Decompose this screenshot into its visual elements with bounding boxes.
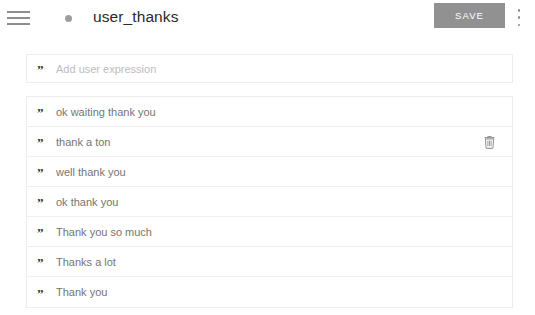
trash-icon[interactable] xyxy=(478,131,500,153)
quote-icon: ” xyxy=(37,256,50,269)
quote-icon: ” xyxy=(37,287,50,300)
expression-row[interactable]: ”Thank you xyxy=(27,277,512,307)
add-expression-input[interactable] xyxy=(56,63,512,75)
add-expression-card[interactable]: ” xyxy=(26,54,513,83)
expression-text: ok thank you xyxy=(56,196,512,208)
quote-icon: ” xyxy=(37,226,50,239)
page-title: user_thanks xyxy=(93,8,179,26)
quote-icon: ” xyxy=(37,136,50,149)
expression-text: thank a ton xyxy=(56,136,478,148)
quote-icon: ” xyxy=(37,106,50,119)
hamburger-bar xyxy=(7,23,30,25)
quote-icon: ” xyxy=(37,63,50,76)
expression-text: Thank you so much xyxy=(56,226,512,238)
quote-icon: ” xyxy=(37,166,50,179)
expression-row[interactable]: ”thank a ton xyxy=(27,127,512,157)
expression-row[interactable]: ”Thank you so much xyxy=(27,217,512,247)
hamburger-menu-icon[interactable] xyxy=(7,11,30,25)
expression-text: ok waiting thank you xyxy=(56,106,512,118)
status-dot-indicator xyxy=(65,15,72,22)
expression-text: well thank you xyxy=(56,166,512,178)
save-button[interactable]: SAVE xyxy=(434,3,505,28)
expression-row[interactable]: ”ok thank you xyxy=(27,187,512,217)
more-vertical-icon[interactable] xyxy=(515,9,523,26)
hamburger-bar xyxy=(7,17,30,19)
overflow-dot xyxy=(518,9,521,12)
expression-row[interactable]: ”Thanks a lot xyxy=(27,247,512,277)
hamburger-bar xyxy=(7,11,30,13)
overflow-dot xyxy=(518,24,521,27)
overflow-dot xyxy=(518,16,521,19)
expression-text: Thank you xyxy=(56,286,512,298)
expression-text: Thanks a lot xyxy=(56,256,512,268)
app-header: user_thanks SAVE xyxy=(0,0,535,40)
quote-icon: ” xyxy=(37,196,50,209)
expression-row[interactable]: ”ok waiting thank you xyxy=(27,97,512,127)
expression-list: ”ok waiting thank you”thank a ton”well t… xyxy=(26,96,513,308)
expression-row[interactable]: ”well thank you xyxy=(27,157,512,187)
